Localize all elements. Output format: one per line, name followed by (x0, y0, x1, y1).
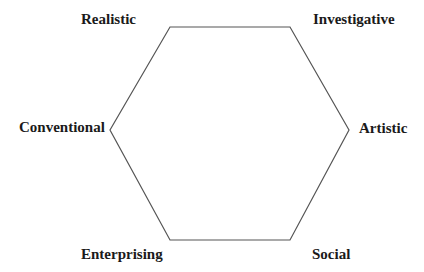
hexagon-shape (0, 0, 424, 272)
label-social: Social (312, 247, 350, 262)
label-investigative: Investigative (313, 12, 395, 27)
label-conventional: Conventional (19, 120, 105, 135)
label-enterprising: Enterprising (81, 247, 163, 262)
hexagon-outline (110, 27, 349, 240)
label-realistic: Realistic (81, 12, 136, 27)
riasec-hexagon-diagram: Realistic Investigative Artistic Social … (0, 0, 424, 272)
label-artistic: Artistic (359, 121, 407, 136)
